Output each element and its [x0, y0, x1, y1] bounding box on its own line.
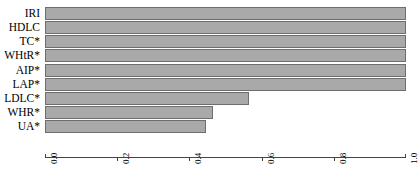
category-label: IRI — [0, 7, 43, 20]
bar — [45, 49, 406, 62]
x-axis-tick — [262, 157, 263, 161]
category-label: AIP* — [0, 64, 43, 77]
category-label: TC* — [0, 35, 43, 48]
bar-row — [45, 49, 406, 62]
bar-row — [45, 106, 406, 119]
x-axis-tick-label: 0.8 — [338, 153, 348, 164]
x-axis-tick-label: 0.6 — [266, 153, 276, 164]
bar — [45, 106, 213, 119]
x-axis-tick — [189, 157, 190, 161]
bar-row — [45, 35, 406, 48]
x-axis-tick — [117, 157, 118, 161]
category-label: UA* — [0, 120, 43, 133]
x-axis: 0.00.20.40.60.81.0 — [45, 157, 406, 159]
bar-chart: IRIHDLCTC*WHtR*AIP*LAP*LDLC*WHR*UA* 0.00… — [0, 0, 418, 185]
category-label: HDLC — [0, 21, 43, 34]
x-axis-tick — [334, 157, 335, 161]
bar — [45, 7, 406, 20]
bar — [45, 78, 406, 91]
category-label: LAP* — [0, 78, 43, 91]
bar — [45, 120, 206, 133]
x-axis-tick — [45, 154, 46, 158]
bar — [45, 21, 406, 34]
x-axis-line — [45, 157, 406, 158]
bar-row — [45, 120, 406, 133]
bar-row — [45, 78, 406, 91]
x-axis-tick — [405, 154, 406, 158]
bar — [45, 64, 406, 77]
bar — [45, 35, 406, 48]
y-axis-category-labels: IRIHDLCTC*WHtR*AIP*LAP*LDLC*WHR*UA* — [0, 7, 43, 152]
bar-row — [45, 21, 406, 34]
plot-area — [45, 7, 406, 152]
bar-row — [45, 92, 406, 105]
bar-row — [45, 64, 406, 77]
category-label: WHR* — [0, 106, 43, 119]
category-label: LDLC* — [0, 92, 43, 105]
x-axis-tick-label: 0.4 — [193, 153, 203, 164]
bar — [45, 92, 249, 105]
x-axis-tick-label: 1.0 — [409, 153, 418, 164]
x-axis-tick-label: 0.2 — [121, 153, 131, 164]
x-axis-tick-label: 0.0 — [49, 153, 59, 164]
category-label: WHtR* — [0, 49, 43, 62]
bar-row — [45, 7, 406, 20]
